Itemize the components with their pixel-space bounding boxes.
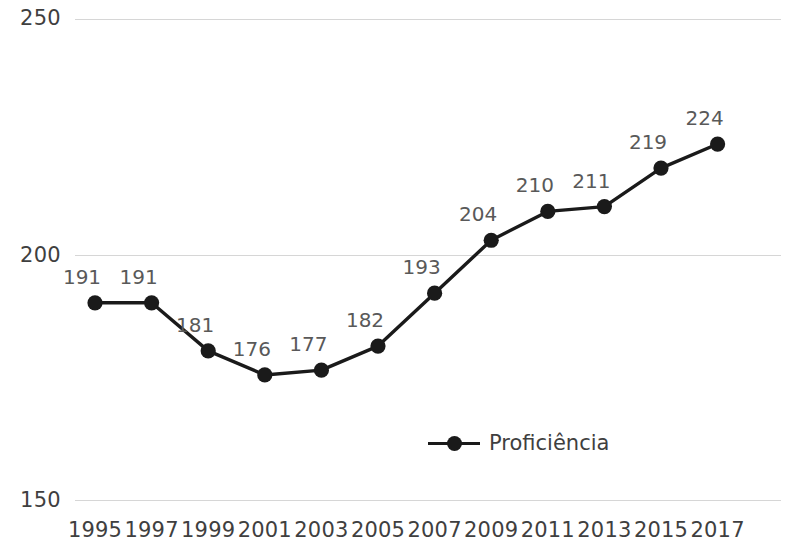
xtick-label-2001: 2001 (238, 518, 292, 542)
xtick-label-1999: 1999 (181, 518, 235, 542)
legend-marker-icon (428, 435, 480, 451)
data-point-1999 (201, 343, 216, 358)
data-label-2009: 204 (459, 202, 497, 226)
data-label-1999: 181 (176, 313, 214, 337)
data-label-2013: 211 (572, 169, 610, 193)
xtick-label-2011: 2011 (521, 518, 575, 542)
xtick-label-1997: 1997 (124, 518, 178, 542)
xtick-label-2017: 2017 (690, 518, 744, 542)
xtick-label-2007: 2007 (407, 518, 461, 542)
data-point-2015 (653, 161, 668, 176)
line-chart: 250 200 150 1911911811761771821932042102… (0, 0, 794, 553)
xtick-label-2013: 2013 (577, 518, 631, 542)
data-point-2017 (710, 136, 725, 151)
data-label-2017: 224 (686, 106, 724, 130)
data-label-2001: 176 (233, 337, 271, 361)
chart-legend[interactable]: Proficiência (428, 431, 609, 455)
xtick-label-1995: 1995 (68, 518, 122, 542)
data-point-2005 (370, 338, 385, 353)
data-point-2007 (427, 286, 442, 301)
data-label-1997: 191 (120, 265, 158, 289)
data-label-2003: 177 (289, 332, 327, 356)
xtick-label-2009: 2009 (464, 518, 518, 542)
data-point-2013 (597, 199, 612, 214)
xtick-label-2005: 2005 (351, 518, 405, 542)
data-label-2015: 219 (629, 130, 667, 154)
xtick-label-2003: 2003 (294, 518, 348, 542)
data-point-1995 (87, 295, 102, 310)
data-point-2011 (540, 204, 555, 219)
data-label-1995: 191 (63, 265, 101, 289)
data-label-2011: 210 (516, 173, 554, 197)
data-label-2007: 193 (403, 255, 441, 279)
data-point-2001 (257, 367, 272, 382)
legend-label-proficiencia: Proficiência (489, 431, 609, 455)
data-point-2003 (314, 363, 329, 378)
data-point-2009 (484, 233, 499, 248)
data-label-2005: 182 (346, 308, 384, 332)
xtick-label-2015: 2015 (634, 518, 688, 542)
data-point-1997 (144, 295, 159, 310)
